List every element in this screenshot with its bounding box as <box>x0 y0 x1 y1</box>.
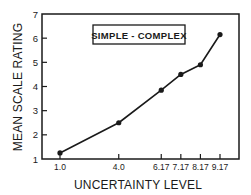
data-point-marker <box>116 120 121 125</box>
y-axis-title: MEAN SCALE RATING <box>11 23 25 152</box>
y-tick-label: 7 <box>33 9 38 20</box>
x-tick-label: 4.0 <box>113 162 125 172</box>
data-point-marker <box>159 88 164 93</box>
legend-label: SIMPLE - COMPLEX <box>91 30 187 41</box>
x-tick-label: 9.17 <box>212 162 229 172</box>
line-chart: 1234567 1.04.06.177.178.179.17 SIMPLE - … <box>0 0 251 195</box>
data-series <box>57 32 222 156</box>
legend: SIMPLE - COMPLEX <box>91 25 187 44</box>
data-point-marker <box>217 32 222 37</box>
x-axis-title: UNCERTAINTY LEVEL <box>74 178 202 192</box>
series-line <box>60 35 220 153</box>
y-tick-label: 5 <box>33 57 38 68</box>
y-axis: 1234567 <box>33 9 47 165</box>
y-tick-label: 1 <box>33 154 38 165</box>
y-tick-label: 2 <box>33 129 38 140</box>
y-tick-label: 6 <box>33 33 38 44</box>
x-tick-label: 1.0 <box>54 162 66 172</box>
data-point-marker <box>198 62 203 67</box>
data-point-marker <box>57 150 62 155</box>
x-axis: 1.04.06.177.178.179.17 <box>54 154 228 172</box>
y-tick-label: 4 <box>33 81 38 92</box>
chart-canvas: 1234567 1.04.06.177.178.179.17 SIMPLE - … <box>0 0 251 195</box>
x-tick-label: 6.17 <box>153 162 170 172</box>
x-tick-label: 7.17 <box>173 162 190 172</box>
data-point-marker <box>178 72 183 77</box>
x-tick-label: 8.17 <box>192 162 209 172</box>
y-tick-label: 3 <box>33 105 38 116</box>
